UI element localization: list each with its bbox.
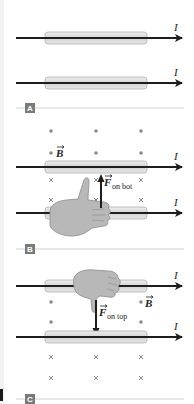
force-label: F [103, 176, 112, 188]
wire-top: I [16, 150, 182, 173]
force-subscript: on bot [112, 182, 133, 191]
field-label-b: B [55, 146, 64, 160]
panel-c: I B F on top I [16, 269, 184, 404]
wire-bottom: I [16, 320, 182, 343]
current-label: I [173, 196, 179, 208]
force-label: F [98, 306, 107, 318]
panel-tag-label: A [27, 104, 33, 113]
panel-tag-label: B [27, 245, 33, 254]
panel-a: I I A [16, 21, 184, 113]
panel-tag-label: C [27, 395, 33, 404]
current-label: I [173, 320, 179, 332]
svg-text:B: B [55, 147, 63, 159]
field-label-b: B [144, 296, 153, 310]
wire-top: I [16, 21, 182, 44]
field-crosses-icon [49, 355, 143, 380]
svg-text:B: B [144, 297, 152, 309]
current-label: I [173, 66, 179, 78]
force-subscript: on top [107, 312, 127, 321]
current-label: I [173, 21, 179, 33]
current-label: I [173, 269, 179, 281]
wire-bottom: I [16, 66, 182, 89]
panel-b: B I I F [16, 129, 184, 254]
parallel-wires-diagram: I I A B I [0, 0, 194, 404]
current-label: I [173, 150, 179, 162]
